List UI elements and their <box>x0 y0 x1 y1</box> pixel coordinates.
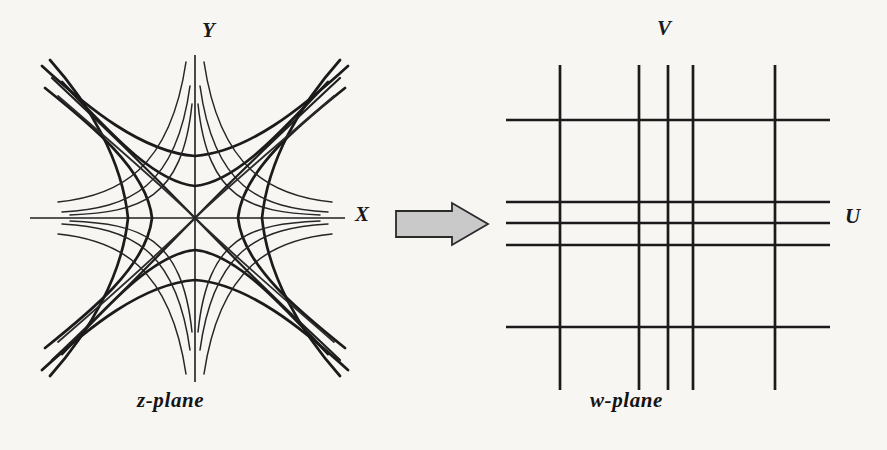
z-plane-x-axis-label: X <box>355 202 370 227</box>
w-plane-v-axis-label: V <box>657 16 672 41</box>
figure-canvas: Y X V U z-plane w-plane <box>0 0 887 450</box>
diagram-artwork <box>0 0 887 450</box>
z-plane-group <box>30 55 348 382</box>
z-plane-y-axis-label: Y <box>202 18 215 43</box>
w-plane-group <box>506 65 830 390</box>
w-plane-caption: w-plane <box>590 388 663 413</box>
w-plane-u-axis-label: U <box>845 204 861 229</box>
z-plane-caption: z-plane <box>137 388 204 413</box>
transformation-arrow <box>396 203 488 245</box>
